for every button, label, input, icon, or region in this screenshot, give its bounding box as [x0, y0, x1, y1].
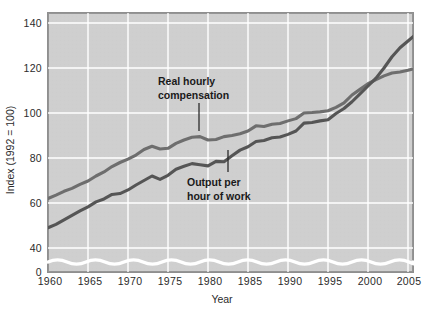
x-axis-title: Year — [211, 293, 233, 305]
y-tick-80: 80 — [30, 152, 42, 164]
y-tick-40: 40 — [30, 242, 42, 254]
productivity-compensation-chart: Real hourly compensation Output per hour… — [0, 0, 435, 311]
y-tick-100: 100 — [24, 107, 42, 119]
annotation-compensation-line2: compensation — [158, 89, 229, 101]
x-tick-1990: 1990 — [278, 275, 303, 287]
annotation-output-line2: hour of work — [187, 190, 251, 202]
x-tick-1985: 1985 — [238, 275, 263, 287]
y-axis-title: Index (1992 = 100) — [4, 106, 16, 194]
y-tick-60: 60 — [30, 197, 42, 209]
x-tick-2005: 2005 — [397, 275, 422, 287]
paper-texture — [48, 13, 413, 272]
y-tick-120: 120 — [24, 62, 42, 74]
x-tick-1970: 1970 — [118, 275, 143, 287]
x-tick-2000: 2000 — [358, 275, 383, 287]
x-tick-1995: 1995 — [318, 275, 343, 287]
y-tick-140: 140 — [24, 17, 42, 29]
x-tick-1980: 1980 — [198, 275, 223, 287]
x-tick-1975: 1975 — [158, 275, 183, 287]
x-tick-1960: 1960 — [38, 275, 63, 287]
chart-figure: Real hourly compensation Output per hour… — [0, 0, 435, 311]
annotation-output-line1: Output per — [187, 176, 241, 188]
annotation-compensation-line1: Real hourly — [158, 75, 215, 87]
x-tick-1965: 1965 — [78, 275, 103, 287]
